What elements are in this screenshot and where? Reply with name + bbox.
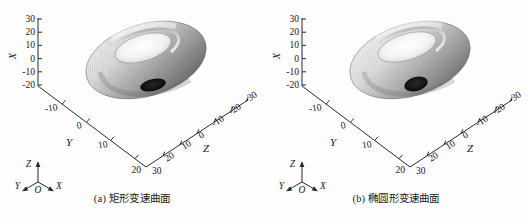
triad-arrow-z-a	[36, 161, 41, 167]
tick-x-b-5: -20	[286, 79, 299, 90]
caption-panel-a: (a) 矩形变速曲面	[0, 190, 264, 205]
triad-arrow-z-b	[300, 161, 305, 167]
tick-y-a-1: 0	[76, 119, 83, 131]
tick-z-b-1: -20	[490, 100, 507, 116]
tick-y-a-2: 10	[97, 138, 108, 150]
tick-y-a-0: -10	[44, 101, 59, 114]
axis-label-x-b: X	[270, 51, 282, 60]
axis-label-x-a: X	[6, 51, 18, 60]
tick-z-b-6: 30	[416, 165, 426, 176]
tick-x-b-4: -10	[286, 66, 299, 77]
axis-y-b: -10 0 10 20 Y	[302, 86, 410, 175]
axis-z-b: 30 20 10 0 -10 -20 -30 Z	[410, 88, 523, 176]
tick-x-b-3: 0	[294, 53, 299, 64]
tick-y-b-0: -10	[308, 101, 323, 114]
tick-z-b-5: 20	[426, 149, 440, 164]
axis-label-z-a: Z	[203, 142, 210, 154]
tick-x-a-5: -20	[22, 79, 35, 90]
tick-x-a-4: -10	[22, 66, 35, 77]
tick-y-b-3: 20	[395, 164, 405, 175]
caption-panel-b: (b) 椭圆形变速曲面	[264, 190, 528, 205]
tick-x-a-1: 20	[25, 26, 35, 37]
surface-torus-b	[340, 7, 480, 112]
figure-container: 30 20 10 0 -10 -20 X -10 0	[0, 0, 528, 224]
tick-y-b-1: 0	[340, 119, 347, 131]
axis-z-a: 30 20 10 0 -10 -20 -30 Z	[146, 88, 259, 176]
triad-label-z-b: Z	[290, 159, 296, 169]
tick-z-a-3: 0	[196, 129, 206, 141]
surface-torus-a	[76, 7, 216, 112]
plot-b: 30 20 10 0 -10 -20 X -10 0	[264, 0, 528, 200]
tick-x-b-2: 10	[289, 39, 299, 50]
tick-y-b-2: 10	[361, 138, 372, 150]
tick-z-a-4: 10	[179, 137, 193, 152]
figure-panel-b: 30 20 10 0 -10 -20 X -10 0	[264, 0, 528, 224]
tick-y-a-3: 20	[131, 164, 141, 175]
axis-x-a: 30 20 10 0 -10 -20 X	[6, 13, 42, 90]
tick-z-a-6: 30	[152, 165, 162, 176]
plot-a: 30 20 10 0 -10 -20 X -10 0	[0, 0, 264, 200]
axis-y-a: -10 0 10 20 Y	[38, 86, 146, 175]
tick-z-a-1: -20	[226, 100, 243, 116]
tick-x-a-3: 0	[30, 53, 35, 64]
tick-z-b-4: 10	[443, 137, 457, 152]
tick-z-a-5: 20	[162, 149, 176, 164]
axis-label-z-b: Z	[467, 142, 474, 154]
axis-x-b: 30 20 10 0 -10 -20 X	[270, 13, 306, 90]
tick-x-b-0: 30	[289, 13, 299, 24]
triad-label-z-a: Z	[26, 159, 32, 169]
tick-z-b-3: 0	[460, 129, 470, 141]
axis-label-y-b: Y	[330, 136, 338, 148]
tick-x-b-1: 20	[289, 26, 299, 37]
figure-panel-a: 30 20 10 0 -10 -20 X -10 0	[0, 0, 264, 224]
tick-x-a-2: 10	[25, 39, 35, 50]
tick-z-a-2: -10	[209, 112, 226, 128]
axis-label-y-a: Y	[66, 136, 74, 148]
tick-x-a-0: 30	[25, 13, 35, 24]
tick-z-b-2: -10	[473, 112, 490, 128]
